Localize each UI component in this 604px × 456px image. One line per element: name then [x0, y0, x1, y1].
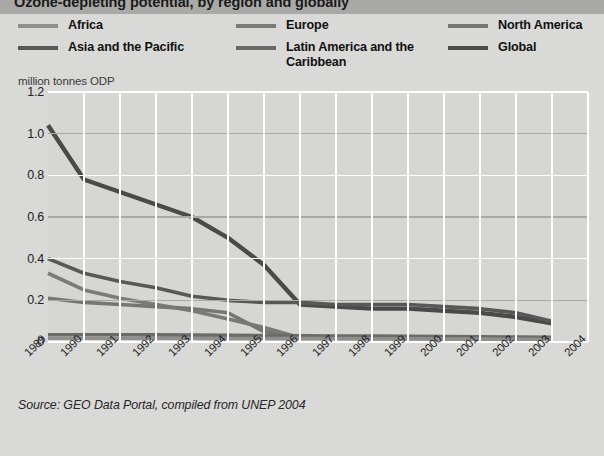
legend-item-north-america: North America	[448, 18, 604, 36]
gridline-vertical	[227, 92, 229, 342]
gridline-vertical	[299, 92, 301, 342]
legend-label-global: Global	[498, 40, 536, 55]
gridline-vertical	[479, 92, 481, 342]
y-tick-label: 1.2	[10, 85, 44, 99]
legend-item-global: Global	[448, 40, 604, 58]
y-tick-label: 1.0	[10, 127, 44, 141]
gridline-vertical	[119, 92, 121, 342]
gridline-vertical	[587, 92, 589, 342]
chart-figure: Ozone-depleting potential, by region and…	[0, 0, 604, 456]
legend-label-north-america: North America	[498, 18, 582, 33]
gridline-horizontal	[48, 258, 588, 260]
x-axis-ticks: 1989199019911992199319941995199619971998…	[0, 344, 604, 390]
source-note: Source: GEO Data Portal, compiled from U…	[18, 398, 305, 412]
legend-label-europe: Europe	[286, 18, 328, 33]
plot-area	[48, 92, 588, 342]
gridline-vertical	[191, 92, 193, 342]
gridline-horizontal	[48, 216, 588, 218]
gridline-vertical	[335, 92, 337, 342]
y-axis-ticks: 00.20.40.60.81.01.2	[8, 92, 44, 342]
legend-column-2: Europe Latin America and the Caribbean	[236, 18, 442, 76]
legend-swatch-asia-and-the-pacific	[18, 46, 58, 50]
legend-item-europe: Europe	[236, 18, 442, 36]
gridline-vertical	[407, 92, 409, 342]
legend-swatch-latin-america-and-the-caribbean	[236, 46, 276, 50]
gridline-vertical	[371, 92, 373, 342]
gridline-vertical	[155, 92, 157, 342]
plot-container: 00.20.40.60.81.01.2	[0, 92, 604, 342]
y-tick-label: 0.2	[10, 293, 44, 307]
figure-title-bar: Ozone-depleting potential, by region and…	[0, 0, 604, 14]
legend-swatch-europe	[236, 24, 276, 28]
y-tick-label: 0.6	[10, 210, 44, 224]
y-tick-label: 0.8	[10, 168, 44, 182]
legend-item-africa: Africa	[18, 18, 236, 36]
legend-swatch-africa	[18, 24, 58, 28]
bottom-strip	[0, 420, 604, 456]
legend-label-asia-and-the-pacific: Asia and the Pacific	[68, 40, 184, 55]
legend-label-africa: Africa	[68, 18, 103, 33]
gridline-vertical	[515, 92, 517, 342]
legend-swatch-global	[448, 46, 488, 50]
gridline-vertical	[263, 92, 265, 342]
legend-item-latin-america-and-the-caribbean: Latin America and the Caribbean	[236, 40, 442, 72]
gridline-horizontal	[48, 133, 588, 135]
gridline-vertical	[551, 92, 553, 342]
legend: Africa Asia and the Pacific Europe Latin…	[0, 18, 604, 70]
gridline-horizontal	[48, 91, 588, 93]
legend-swatch-north-america	[448, 24, 488, 28]
gridline-horizontal	[48, 300, 588, 302]
legend-label-latin-america-and-the-caribbean: Latin America and the Caribbean	[286, 40, 431, 70]
page-title: Ozone-depleting potential, by region and…	[14, 0, 349, 10]
y-tick-label: 0.4	[10, 252, 44, 266]
legend-column-1: Africa Asia and the Pacific	[18, 18, 236, 62]
legend-column-3: North America Global	[448, 18, 604, 62]
gridline-horizontal	[48, 175, 588, 177]
legend-item-asia-and-the-pacific: Asia and the Pacific	[18, 40, 236, 58]
gridline-vertical	[443, 92, 445, 342]
gridline-vertical	[83, 92, 85, 342]
